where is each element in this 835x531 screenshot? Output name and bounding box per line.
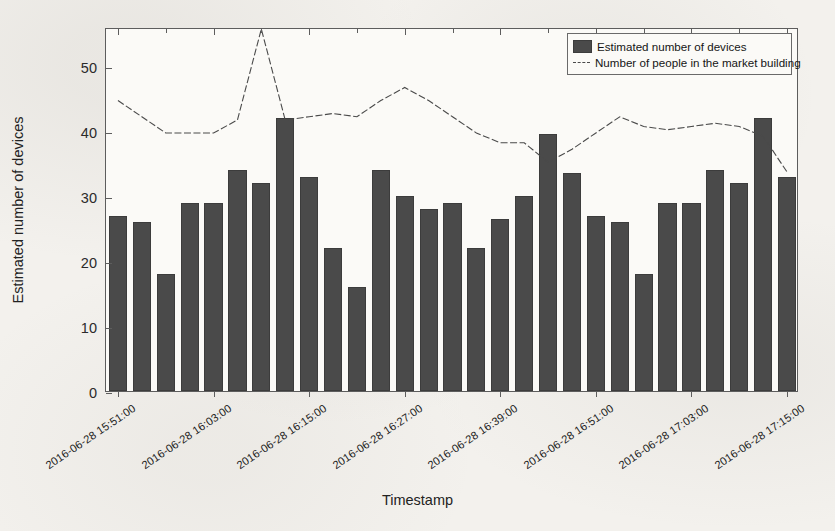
- y-tick-mark: [106, 328, 112, 329]
- x-minor-tick-top: [261, 29, 262, 33]
- y-tick-label: 0: [89, 385, 97, 401]
- y-tick-label: 20: [81, 255, 97, 271]
- x-tick-mark: [118, 391, 119, 397]
- y-tick-label: 40: [81, 125, 97, 141]
- x-minor-tick-top: [453, 29, 454, 33]
- plot-area: 01020304050: [105, 28, 798, 392]
- x-tick-mark: [500, 391, 501, 397]
- y-tick-mark: [106, 198, 112, 199]
- x-minor-tick-top: [166, 29, 167, 33]
- y-tick-mark: [106, 133, 112, 134]
- x-tick-mark-top: [405, 29, 406, 35]
- x-tick-label: 2016-06-28 17:15:00: [712, 402, 806, 471]
- x-tick-mark: [596, 391, 597, 397]
- x-tick-label: 2016-06-28 16:27:00: [330, 402, 424, 471]
- y-axis-title: Estimated number of devices: [10, 117, 26, 304]
- y-tick-mark: [106, 393, 112, 394]
- legend-item-devices: Estimated number of devices: [573, 38, 786, 54]
- y-tick-mark: [106, 68, 112, 69]
- legend-label: Estimated number of devices: [597, 40, 747, 53]
- x-axis-title: Timestamp: [0, 492, 835, 508]
- x-tick-label: 2016-06-28 16:51:00: [521, 402, 615, 471]
- y-tick-label: 10: [81, 320, 97, 336]
- x-tick-mark: [309, 391, 310, 397]
- y-tick-label: 50: [81, 60, 97, 76]
- legend-dashed-line-icon: [573, 57, 590, 68]
- x-tick-label: 2016-06-28 16:15:00: [234, 402, 328, 471]
- plot-inner: [106, 29, 797, 391]
- x-tick-label: 2016-06-28 16:03:00: [139, 402, 233, 471]
- x-tick-label: 2016-06-28 16:39:00: [426, 402, 520, 471]
- line-series: [106, 29, 797, 391]
- x-tick-mark-top: [500, 29, 501, 35]
- legend-label: Number of people in the market building: [595, 56, 801, 69]
- x-tick-mark: [787, 391, 788, 397]
- x-tick-mark-top: [118, 29, 119, 35]
- chart-figure: Estimated number of devices 01020304050 …: [0, 0, 835, 531]
- chart-legend: Estimated number of devices Number of pe…: [567, 33, 792, 75]
- x-tick-label: 2016-06-28 15:51:00: [43, 402, 137, 471]
- x-tick-mark-top: [309, 29, 310, 35]
- y-tick-mark: [106, 263, 112, 264]
- x-tick-label: 2016-06-28 17:03:00: [617, 402, 711, 471]
- x-tick-mark: [405, 391, 406, 397]
- y-tick-label: 30: [81, 190, 97, 206]
- x-minor-tick-top: [548, 29, 549, 33]
- legend-item-people: Number of people in the market building: [573, 54, 786, 70]
- x-tick-mark: [691, 391, 692, 397]
- x-tick-mark-top: [214, 29, 215, 35]
- x-tick-mark: [214, 391, 215, 397]
- legend-swatch-icon: [573, 40, 592, 53]
- x-minor-tick-top: [357, 29, 358, 33]
